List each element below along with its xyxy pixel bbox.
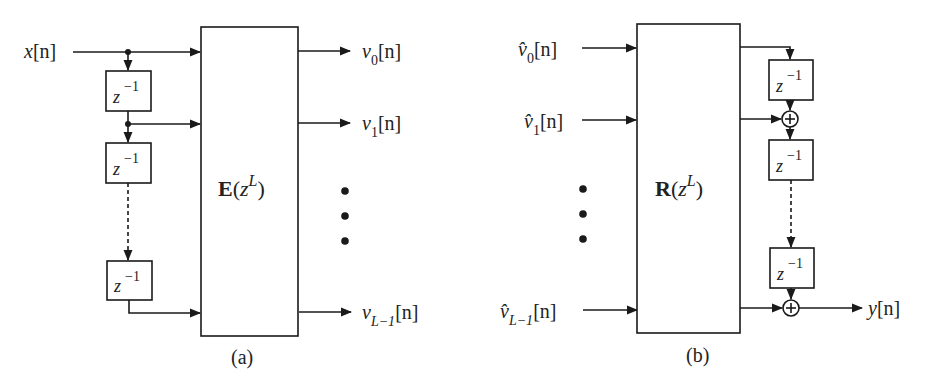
output-label-v0: v0[n] [362,40,401,68]
delay-block-a1: z −1 [106,71,151,111]
delay-block-b1: z −1 [769,60,813,100]
vertical-ellipsis-b [579,185,587,243]
svg-text:−1: −1 [124,151,139,166]
svg-text:z: z [113,276,121,296]
delay-block-b3: z −1 [770,248,814,288]
polyphase-block-diagram: x[n] z −1 z −1 z −1 [0,0,926,387]
synthesis-polyphase-matrix-R: R(zL) [637,24,740,333]
vertical-ellipsis-a [341,187,349,245]
svg-text:−1: −1 [788,256,803,271]
input-label-x: x[n] [23,40,56,62]
output-label-v1: v1[n] [362,112,401,140]
caption-a: (a) [231,346,253,369]
analysis-polyphase-matrix-E: E(zL) [201,27,298,336]
output-label-y: y[n] [866,297,900,320]
svg-text:−1: −1 [125,269,140,284]
svg-text:−1: −1 [124,79,139,94]
panel-b-synthesis-bank: v̂0[n] v̂1[n] v̂L−1[n] R(zL) [500,24,900,367]
svg-text:z: z [112,159,120,179]
delay-block-a3: z −1 [107,261,152,300]
adder-1 [782,111,798,127]
svg-text:z: z [776,264,784,284]
svg-text:R(zL): R(zL) [655,172,703,201]
svg-text:z: z [775,76,783,96]
svg-text:z: z [112,87,120,107]
delay-block-b2: z −1 [769,140,813,180]
adder-2 [783,300,799,316]
input-label-vhat0: v̂0[n] [518,38,557,66]
output-branch-0 [740,47,790,59]
caption-b: (b) [686,344,709,367]
svg-text:E(zL): E(zL) [218,172,265,201]
output-label-vL-1: vL−1[n] [362,301,418,329]
input-line-last [129,300,200,313]
delay-block-a2: z −1 [106,143,151,183]
svg-text:−1: −1 [787,148,802,163]
input-label-vhatL-1: v̂L−1[n] [500,300,556,328]
svg-text:z: z [775,156,783,176]
panel-a-analysis-bank: x[n] z −1 z −1 z −1 [23,27,418,369]
input-label-vhat1: v̂1[n] [524,110,563,138]
svg-text:−1: −1 [787,68,802,83]
